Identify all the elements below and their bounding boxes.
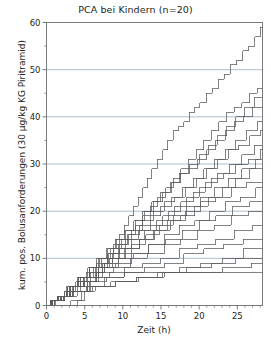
y-tick-label-20: 20 (30, 206, 41, 216)
x-tick-label-0: 0 (44, 311, 49, 321)
y-tick-label-40: 40 (30, 112, 41, 122)
chart-figure: PCA bei Kindern (n=20) 05101520250102030… (0, 0, 271, 347)
y-tick-label-60: 60 (30, 18, 41, 28)
series-line-12 (47, 188, 263, 306)
series-line-15 (47, 225, 263, 305)
x-axis-label: Zeit (h) (46, 325, 262, 335)
y-tick-label-50: 50 (30, 65, 41, 75)
ticks-group (43, 23, 261, 310)
x-tick-label-25: 25 (232, 311, 243, 321)
y-tick-label-0: 0 (35, 301, 40, 311)
x-tick-label-20: 20 (194, 311, 205, 321)
x-tick-label-10: 10 (117, 311, 128, 321)
series-line-1 (47, 27, 263, 305)
y-tick-label-30: 30 (30, 159, 41, 169)
x-tick-label-5: 5 (82, 311, 87, 321)
y-tick-label-10: 10 (30, 253, 41, 263)
x-tick-label-15: 15 (156, 311, 167, 321)
series-line-6 (47, 131, 263, 306)
chart-plot-area: 05101520250102030405060 (0, 0, 271, 347)
series-group (47, 27, 263, 305)
y-axis-label: kum. pos. Bolusanforderungen (30 µg/kg K… (17, 35, 27, 295)
